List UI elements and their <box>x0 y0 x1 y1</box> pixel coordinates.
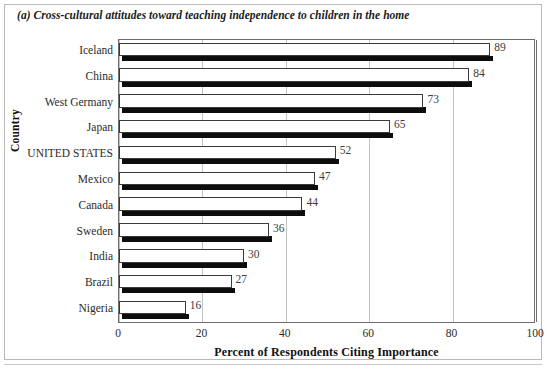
x-tick-label-60: 60 <box>362 327 374 339</box>
bar-row[interactable]: 30 <box>119 247 536 273</box>
bar-row[interactable]: 47 <box>119 169 536 195</box>
figure-panel: (a) Cross-cultural attitudes toward teac… <box>4 4 542 360</box>
y-tick-label-iceland: Iceland <box>79 44 113 56</box>
bar-value-label: 65 <box>394 118 406 130</box>
bar-shadow <box>122 159 339 165</box>
bar-iceland[interactable] <box>119 43 490 57</box>
y-tick-label-china: China <box>86 70 113 82</box>
bar-brazil[interactable] <box>119 275 232 289</box>
bar-row[interactable]: 65 <box>119 117 536 143</box>
bar-row[interactable]: 89 <box>119 40 536 66</box>
y-tick-label-canada: Canada <box>79 199 113 211</box>
bar-sweden[interactable] <box>119 223 269 237</box>
y-axis-tick-labels: IcelandChinaWest GermanyJapanUNITED STAT… <box>5 39 113 323</box>
x-axis-tick-labels: 020406080100 <box>118 327 535 343</box>
bar-shadow <box>122 262 247 268</box>
bar-row[interactable]: 16 <box>119 298 536 324</box>
bar-value-label: 84 <box>473 67 485 79</box>
bar-value-label: 73 <box>427 93 439 105</box>
bar-mexico[interactable] <box>119 172 315 186</box>
bar-shadow <box>122 107 426 113</box>
bar-value-label: 36 <box>273 222 285 234</box>
bar-value-label: 47 <box>319 170 331 182</box>
x-tick-label-0: 0 <box>115 327 121 339</box>
bar-value-label: 44 <box>306 196 318 208</box>
bar-shadow <box>122 288 235 294</box>
bar-row[interactable]: 44 <box>119 195 536 221</box>
bar-value-label: 30 <box>248 248 260 260</box>
y-tick-label-united-states: UNITED STATES <box>27 147 113 159</box>
bar-row[interactable]: 73 <box>119 92 536 118</box>
bar-row[interactable]: 36 <box>119 221 536 247</box>
bar-india[interactable] <box>119 249 244 263</box>
bar-row[interactable]: 52 <box>119 143 536 169</box>
y-tick-label-mexico: Mexico <box>78 173 113 185</box>
bar-nigeria[interactable] <box>119 301 186 315</box>
plot-inner: 8984736552474436302716 <box>119 40 534 322</box>
x-tick-label-20: 20 <box>196 327 208 339</box>
bar-shadow <box>122 56 493 62</box>
bar-value-label: 27 <box>236 273 248 285</box>
y-tick-label-sweden: Sweden <box>77 225 113 237</box>
x-tick-label-80: 80 <box>446 327 458 339</box>
plot-area: 8984736552474436302716 <box>118 39 535 323</box>
bar-shadow <box>122 81 472 87</box>
y-tick-label-india: India <box>89 250 113 262</box>
y-tick-label-japan: Japan <box>87 121 113 133</box>
bar-value-label: 52 <box>340 144 352 156</box>
bottom-divider <box>4 364 542 365</box>
bar-united-states[interactable] <box>119 146 336 160</box>
x-tick-label-40: 40 <box>279 327 291 339</box>
figure-caption: (a) Cross-cultural attitudes toward teac… <box>17 9 410 21</box>
bar-japan[interactable] <box>119 120 390 134</box>
x-axis-title: Percent of Respondents Citing Importance <box>118 345 535 360</box>
y-tick-label-brazil: Brazil <box>85 276 113 288</box>
bar-row[interactable]: 84 <box>119 66 536 92</box>
y-tick-label-west-germany: West Germany <box>45 96 113 108</box>
bar-shadow <box>122 236 272 242</box>
x-tick-label-100: 100 <box>526 327 543 339</box>
bar-row[interactable]: 27 <box>119 272 536 298</box>
bar-value-label: 89 <box>494 41 506 53</box>
bar-value-label: 16 <box>190 299 202 311</box>
bar-shadow <box>122 314 189 320</box>
bar-shadow <box>122 210 305 216</box>
bar-shadow <box>122 185 318 191</box>
bar-china[interactable] <box>119 68 469 82</box>
bar-canada[interactable] <box>119 197 302 211</box>
gridline-x-100 <box>536 40 537 322</box>
bar-west-germany[interactable] <box>119 94 423 108</box>
bar-shadow <box>122 133 393 139</box>
y-tick-label-nigeria: Nigeria <box>79 302 113 314</box>
